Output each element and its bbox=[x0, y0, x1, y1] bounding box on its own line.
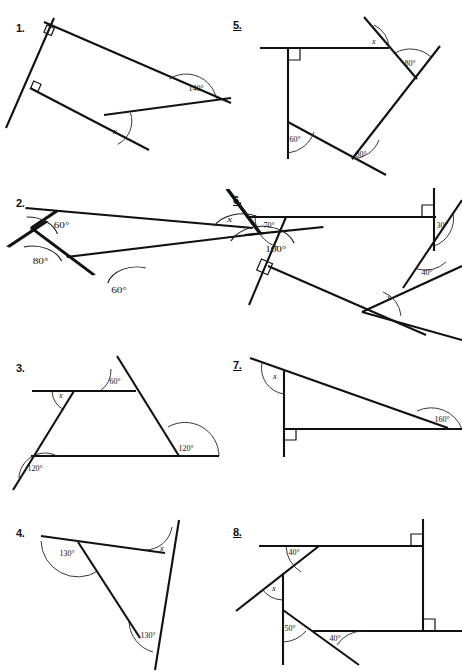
segment-left-slant bbox=[6, 18, 54, 128]
segment-lower-slant-8 bbox=[283, 610, 359, 665]
diagram-2: 60° 80° 60° 100° x bbox=[0, 175, 231, 340]
angle-label-x5: x bbox=[371, 36, 376, 46]
diagram-5: x 80° 60° 80° bbox=[231, 0, 462, 175]
angle-arc-80-top bbox=[395, 49, 431, 57]
problem-7: 7. x 160° bbox=[231, 340, 462, 505]
right-angle-mark-8a bbox=[411, 534, 423, 546]
problem-1: 1. 140° x bbox=[0, 0, 231, 175]
right-angle-mark-8b bbox=[423, 619, 435, 631]
angle-label-40-6: 40° bbox=[421, 268, 432, 277]
problem-4: 4. 130° x 130° bbox=[0, 505, 231, 672]
diagram-1: 140° x bbox=[0, 0, 231, 175]
right-angle-mark-6a bbox=[422, 205, 434, 217]
angle-label-80: 80° bbox=[33, 257, 49, 266]
diagram-4: 130° x 130° bbox=[0, 505, 231, 672]
angle-label-80-bottom: 80° bbox=[355, 150, 366, 159]
angle-label-60-5: 60° bbox=[289, 135, 300, 144]
problem-6: 6. 70° 30° 40° x bbox=[231, 175, 462, 340]
problem-5: 5. x 80° 60° 80° bbox=[231, 0, 462, 175]
angle-arc-40-8b bbox=[337, 631, 363, 645]
segment-bottom-ray bbox=[104, 98, 231, 115]
diagram-7: x 160° bbox=[231, 340, 462, 505]
segment-right-slant bbox=[117, 356, 179, 456]
angle-label-120a: 120° bbox=[178, 444, 193, 453]
angle-label-160: 160° bbox=[434, 415, 449, 424]
diagram-6: 70° 30° 40° x bbox=[231, 175, 462, 340]
worksheet-page: 1. 140° x 2. bbox=[0, 0, 462, 672]
angle-label-60b: 60° bbox=[111, 286, 127, 295]
segment-mid-slant bbox=[31, 228, 94, 275]
segment-long-diagonal bbox=[352, 46, 440, 159]
angle-arc-60-bottom bbox=[108, 267, 146, 283]
angle-label-80-top: 80° bbox=[404, 59, 415, 68]
segment-upper-slant-8 bbox=[236, 546, 319, 611]
right-angle-mark-5 bbox=[288, 48, 300, 60]
angle-label-50: 50° bbox=[284, 624, 295, 633]
angle-label-x8: x bbox=[271, 583, 276, 593]
problem-2: 2. 60° bbox=[0, 175, 231, 340]
problem-3: 3. 60° x 120° 120° bbox=[0, 340, 231, 505]
angle-label-30: 30° bbox=[436, 221, 447, 230]
diagram-3: 60° x 120° 120° bbox=[0, 340, 231, 505]
angle-label-120b: 120° bbox=[27, 464, 42, 473]
segment-left-slant-4 bbox=[78, 542, 140, 638]
segment-middle bbox=[30, 88, 149, 150]
right-angle-mark-7 bbox=[284, 429, 296, 440]
diagram-8: 40° x 50° 40° bbox=[231, 505, 462, 672]
problem-8: 8. 40° x 50° 40° bbox=[231, 505, 462, 672]
angle-label-x: x bbox=[112, 126, 117, 136]
angle-label-60a: 60° bbox=[54, 221, 70, 230]
angle-label-70: 70° bbox=[263, 221, 274, 230]
segment-left-slant3 bbox=[13, 391, 74, 490]
angle-label-130a: 130° bbox=[59, 549, 74, 558]
segment-middle-slant-6 bbox=[268, 266, 426, 335]
angle-label-40-8b: 40° bbox=[329, 634, 340, 643]
angle-arc-x4 bbox=[145, 527, 172, 550]
segment-lower-slant-6 bbox=[362, 312, 462, 340]
angle-label-x3: x bbox=[58, 390, 63, 400]
angle-label-x7: x bbox=[272, 371, 277, 381]
angle-label-60-3: 60° bbox=[109, 377, 120, 386]
angle-label-40-8a: 40° bbox=[288, 548, 299, 557]
angle-label-140: 140° bbox=[188, 84, 203, 93]
segment-right-slant-4 bbox=[155, 520, 179, 670]
angle-label-130b: 130° bbox=[140, 631, 155, 640]
angle-label-x4: x bbox=[159, 543, 164, 553]
segment-bottom-slant-5 bbox=[288, 122, 386, 175]
angle-label-x6: x bbox=[386, 292, 391, 302]
